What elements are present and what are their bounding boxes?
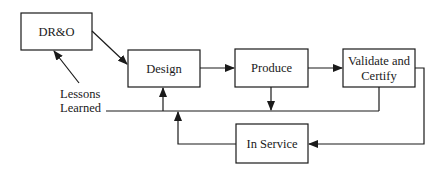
node-design-label: Design: [146, 62, 182, 76]
edge-dro-design: [92, 31, 127, 64]
node-validate-label-line2: Certify: [361, 69, 397, 83]
node-design: Design: [128, 50, 200, 87]
node-validate: Validate and Certify: [343, 49, 415, 87]
node-dro-label: DR&O: [38, 25, 74, 39]
edge-inservice-line: [178, 112, 236, 144]
node-inservice: In Service: [236, 124, 308, 163]
node-inservice-label: In Service: [246, 137, 297, 151]
node-produce-label: Produce: [251, 61, 292, 75]
node-dro: DR&O: [21, 13, 92, 50]
lessons-learned-label-line2: Learned: [60, 101, 102, 115]
edge-lessons-dro: [54, 51, 79, 83]
node-produce: Produce: [235, 49, 308, 87]
process-diagram: DR&O Design Produce Validate and Certify…: [0, 0, 444, 172]
node-validate-label-line1: Validate and: [348, 54, 411, 68]
lessons-learned-label-line1: Lessons: [60, 87, 100, 101]
